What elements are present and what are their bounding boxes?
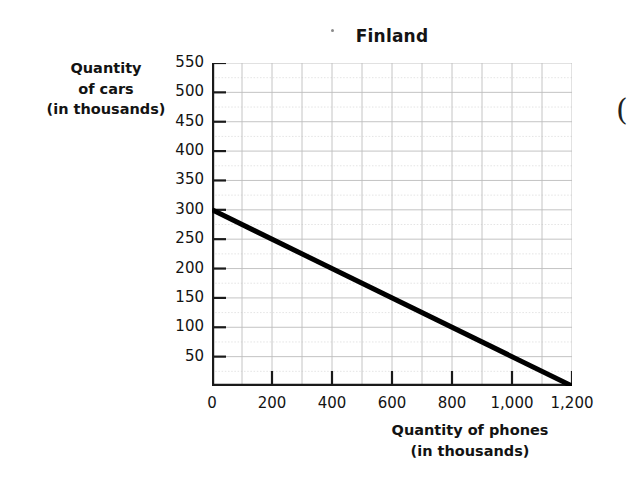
page-edge-parenthesis-artifact: ( — [616, 92, 628, 127]
y-axis-tick-label: 100 — [154, 317, 204, 335]
y-axis-tick-label: 350 — [154, 170, 204, 188]
scan-speck-artifact — [331, 29, 334, 32]
x-axis-tick-label: 0 — [207, 394, 217, 412]
x-axis-tick-label: 1,000 — [491, 394, 534, 412]
chart-title: Finland — [212, 26, 572, 46]
y-axis-tick-label: 150 — [154, 288, 204, 306]
y-axis-tick-label: 250 — [154, 229, 204, 247]
x-axis-title: Quantity of phones (in thousands) — [330, 420, 610, 461]
y-axis-tick-label: 550 — [154, 53, 204, 71]
y-axis-tick-label: 50 — [154, 347, 204, 365]
y-axis-tick-label: 400 — [154, 141, 204, 159]
y-axis-tick-label: 450 — [154, 112, 204, 130]
plot-svg — [212, 63, 572, 386]
x-axis-tick-label: 800 — [438, 394, 467, 412]
x-axis-tick-label: 600 — [378, 394, 407, 412]
plot-area — [212, 63, 572, 386]
x-axis-tick-label: 200 — [258, 394, 287, 412]
x-axis-title-line-2: (in thousands) — [330, 441, 610, 462]
axis-tick-marks — [213, 63, 572, 385]
y-axis-tick-label: 500 — [154, 82, 204, 100]
grid-major-lines — [212, 63, 572, 386]
y-axis-tick-label: 300 — [154, 200, 204, 218]
x-axis-tick-label: 1,200 — [551, 394, 594, 412]
x-axis-tick-label: 400 — [318, 394, 347, 412]
y-axis-tick-label: 200 — [154, 259, 204, 277]
x-axis-title-line-1: Quantity of phones — [330, 420, 610, 441]
